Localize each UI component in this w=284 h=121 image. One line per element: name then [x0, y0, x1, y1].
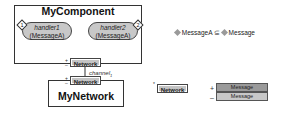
legend-row-plus: +: [210, 86, 214, 91]
legend-message-in: Message: [216, 92, 268, 101]
subtype-legend: MessageA ⊆ Message: [175, 29, 255, 37]
component-port-minus: –: [65, 63, 68, 68]
handler2-type: (MessageA): [95, 32, 130, 39]
legend-row-minus: –: [210, 95, 214, 100]
handler2-pill[interactable]: handler2 (MessageA): [88, 22, 138, 40]
handler1-type: (MessageA): [29, 32, 64, 39]
handler2-name: handler2: [89, 24, 137, 32]
handler1-name: handler1: [23, 24, 71, 32]
network-port-minus: –: [65, 81, 68, 86]
legend-message-out: Message: [216, 83, 268, 92]
legend-network-port-label: Network: [158, 85, 187, 92]
type-diamond-icon: [221, 29, 228, 36]
network-network-port-label: Network: [71, 77, 100, 84]
handler1-pill[interactable]: handler1 (MessageA): [22, 22, 72, 40]
component-network-port[interactable]: Network: [70, 58, 101, 67]
handler2-badge-number: 2: [134, 21, 142, 29]
component-network-port-label: Network: [71, 59, 100, 66]
my-network-title: MyNetwork: [48, 90, 124, 102]
legend-port-star: *: [153, 82, 155, 87]
network-network-port[interactable]: Network: [70, 76, 101, 85]
handler1-badge-number: 1: [18, 21, 26, 29]
type-diamond-icon: [174, 29, 181, 36]
my-component-title: MyComponent: [14, 5, 142, 18]
legend-network-port[interactable]: Network: [157, 84, 188, 93]
